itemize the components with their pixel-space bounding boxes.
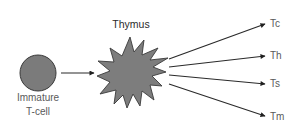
- arrow-to-tm: [169, 84, 265, 116]
- output-label-tm: Tm: [270, 111, 284, 122]
- output-label-tc: Tc: [270, 18, 280, 29]
- immature-label: Immature: [17, 92, 60, 103]
- output-label-th: Th: [270, 50, 282, 61]
- arrow-to-th: [169, 56, 265, 67]
- thymus-starburst: [97, 37, 168, 108]
- thymus-label: Thymus: [112, 18, 149, 30]
- immature-t-cell-circle: [20, 55, 56, 91]
- t-cell-label: T-cell: [26, 106, 50, 117]
- output-label-ts: Ts: [270, 78, 280, 89]
- t-cell-maturation-diagram: Immature T-cell Thymus Tc Th Ts Tm: [0, 0, 298, 125]
- arrow-to-tc: [169, 24, 265, 59]
- arrow-to-ts: [169, 75, 265, 84]
